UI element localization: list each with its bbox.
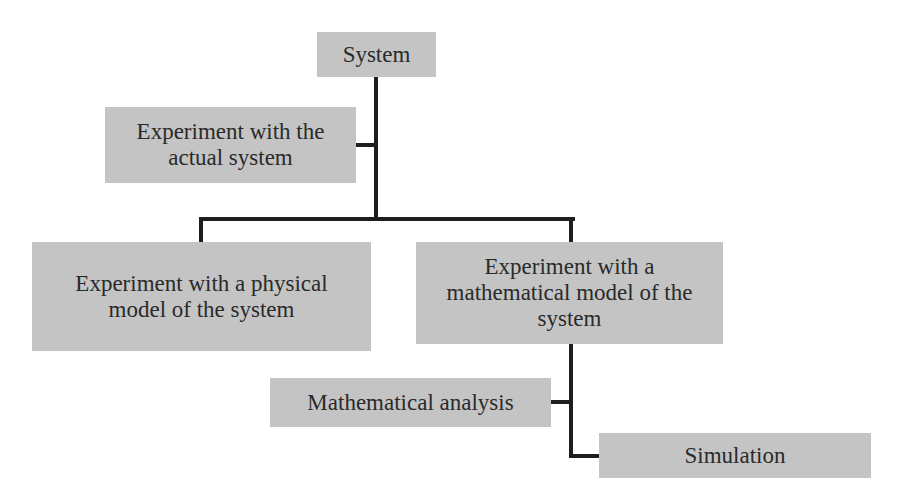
node-system: System: [317, 32, 436, 77]
node-actual-system: Experiment with the actual system: [105, 107, 356, 183]
node-mathematical-analysis-label: Mathematical analysis: [307, 390, 513, 416]
analysis-connector: [551, 400, 571, 404]
simulation-connector: [569, 454, 599, 458]
node-mathematical-model-line-2: mathematical model of the: [447, 280, 693, 306]
node-physical-model-line-1: Experiment with a physical: [75, 271, 327, 297]
node-actual-system-line-1: Experiment with the: [137, 119, 325, 145]
node-actual-system-line-2: actual system: [168, 145, 293, 171]
node-physical-model: Experiment with a physical model of the …: [32, 242, 371, 351]
math-model-connector: [569, 217, 573, 242]
node-mathematical-model-line-1: Experiment with a: [485, 254, 655, 280]
physical-model-connector: [199, 217, 203, 242]
node-mathematical-analysis: Mathematical analysis: [270, 378, 551, 427]
branch-connector: [199, 217, 575, 221]
actual-system-connector: [356, 143, 376, 147]
node-mathematical-model: Experiment with a mathematical model of …: [416, 242, 723, 344]
node-system-label: System: [343, 42, 411, 68]
node-physical-model-line-2: model of the system: [109, 297, 295, 323]
node-mathematical-model-line-3: system: [538, 306, 602, 332]
node-simulation-label: Simulation: [685, 443, 786, 469]
node-simulation: Simulation: [599, 433, 871, 478]
trunk-connector: [374, 77, 378, 221]
